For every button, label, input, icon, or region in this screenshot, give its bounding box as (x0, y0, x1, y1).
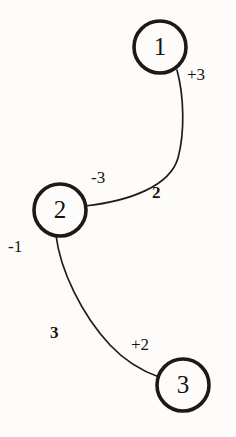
edge-label-minus-one: -1 (8, 238, 22, 255)
edge-weight-label-three: 3 (50, 324, 59, 341)
node-3-label: 3 (163, 372, 203, 397)
edge-label-plus-three: +3 (187, 66, 205, 83)
edge-label-minus-three: -3 (91, 169, 105, 186)
node-1-label: 1 (140, 34, 180, 59)
graph-diagram: 1 2 3 +3 -3 2 -1 3 +2 (0, 0, 236, 437)
edge-weight-label-two: 2 (152, 184, 161, 201)
edge-label-plus-two: +2 (131, 336, 149, 353)
edge-node2-node3 (56, 235, 159, 377)
node-2-label: 2 (40, 197, 80, 222)
